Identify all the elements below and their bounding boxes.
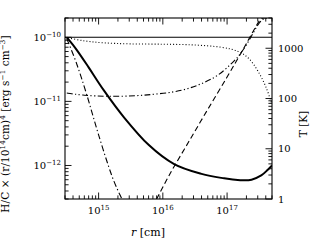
y2-tick-label: 10 — [278, 143, 291, 154]
curve-dashed-rise — [157, 18, 266, 199]
y2-tick-label: 1 — [278, 194, 284, 205]
right-axis-label-text: T [K] — [297, 111, 309, 137]
plot-frame — [65, 18, 272, 199]
right-axis-label: T [K] — [297, 0, 313, 248]
x-tick-label: 1016 — [152, 204, 174, 216]
tick-labels-group: 10151016101710−1210−1110−101101001000 — [33, 31, 303, 216]
y-axis-label: H/C × (r/1014cm)4 [erg s−1 cm−3] — [0, 0, 17, 248]
curve-dash-dot-dot-rise — [67, 18, 267, 96]
y-axis-label-text: H/C × (r/1014cm)4 [erg s−1 cm−3] — [0, 35, 11, 212]
curve-dash-dot-decline — [67, 39, 122, 199]
curve-thick-solid-net — [67, 37, 272, 180]
data-curves-group — [65, 18, 272, 199]
y-tick-label: 10−10 — [33, 31, 61, 43]
y2-tick-label: 100 — [278, 93, 297, 104]
x-axis-label-text: r [cm] — [131, 226, 165, 239]
x-tick-label: 1017 — [216, 204, 238, 216]
y-tick-label: 10−11 — [33, 95, 61, 107]
x-axis-label: r [cm] — [0, 226, 296, 239]
axes-group — [65, 18, 272, 199]
curve-dotted-curve — [65, 37, 272, 104]
figure-plot: 10151016101710−1210−1110−101101001000 H/… — [0, 0, 318, 248]
y-tick-label: 10−12 — [33, 159, 61, 171]
x-tick-label: 1015 — [88, 204, 110, 216]
plot-canvas: 10151016101710−1210−1110−101101001000 — [0, 0, 318, 248]
